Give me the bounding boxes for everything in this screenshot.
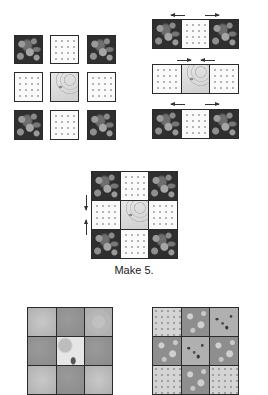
square-r1c3-dark-floral: [87, 35, 116, 64]
block-r3c1-dark-floral: [91, 229, 121, 259]
row3-square-2-dotted: [181, 109, 210, 139]
make-count-caption: Make 5.: [0, 264, 268, 276]
var2-r3c1: [152, 365, 182, 395]
var1-r3c2: [56, 365, 85, 395]
block-r2c1-dotted: [91, 200, 121, 230]
square-r3c1-dark-floral: [14, 110, 43, 140]
block-r2c2-swirl-center: [120, 200, 149, 230]
square-r3c3-dark-floral: [87, 110, 116, 140]
var1-r3c3: [84, 365, 113, 395]
press-arrow-left-icon: [201, 60, 215, 61]
var2-r2c2-center: [181, 336, 210, 366]
var2-r1c3: [209, 307, 239, 337]
row2-square-1-dotted: [152, 64, 182, 94]
variation-block-gray: [0, 300, 130, 373]
row3-square-3-dark-floral: [209, 109, 239, 139]
block-r2c3-dotted: [148, 200, 178, 230]
square-r2c2-swirl-center: [50, 72, 79, 102]
row3-square-1-dark-floral: [152, 109, 182, 139]
row1-square-2-dotted: [181, 19, 210, 49]
step1-square-layout: [0, 0, 130, 150]
var1-r2c3: [84, 336, 113, 366]
press-arrow-left-icon: [171, 15, 185, 16]
var1-r1c1: [27, 307, 57, 337]
row1-square-1-dark-floral: [152, 19, 182, 49]
variation-block-print: [130, 300, 260, 373]
press-arrow-right-icon: [205, 15, 219, 16]
press-arrow-down-icon: [86, 195, 87, 210]
var1-r1c3: [84, 307, 113, 337]
square-r1c2-dotted: [50, 35, 79, 64]
block-r3c3-dark-floral: [148, 229, 178, 259]
var1-r1c2: [56, 307, 85, 337]
var1-r2c2-center: [56, 336, 85, 366]
square-r2c1-dotted: [14, 72, 43, 102]
block-r1c2-dotted: [120, 171, 149, 201]
square-r3c2-dotted: [50, 110, 79, 140]
var2-r3c2: [181, 365, 210, 395]
row2-square-3-dotted: [209, 64, 239, 94]
press-arrow-right-icon: [177, 60, 191, 61]
press-arrow-up-icon: [86, 220, 87, 235]
var2-r2c3: [209, 336, 239, 366]
row2-square-2-swirl-center: [181, 64, 210, 94]
row1-square-3-dark-floral: [209, 19, 239, 49]
block-r3c2-dotted: [120, 229, 149, 259]
var1-r3c1: [27, 365, 57, 395]
var2-r1c1: [152, 307, 182, 337]
square-r1c1-dark-floral: [14, 35, 43, 64]
var1-r2c1: [27, 336, 57, 366]
block-r1c1-dark-floral: [91, 171, 121, 201]
var2-r3c3: [209, 365, 239, 395]
step2-sewn-rows: [130, 0, 260, 150]
block-r1c3-dark-floral: [148, 171, 178, 201]
var2-r2c1: [152, 336, 182, 366]
square-r2c3-dotted: [87, 72, 116, 102]
press-arrow-right-icon: [205, 104, 219, 105]
press-arrow-left-icon: [171, 104, 185, 105]
var2-r1c2: [181, 307, 210, 337]
